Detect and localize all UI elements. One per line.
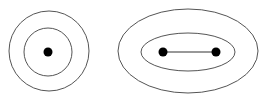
diagram-canvas bbox=[0, 0, 267, 100]
segment-endpoint-left bbox=[159, 48, 168, 57]
left-figure bbox=[9, 11, 89, 91]
center-point bbox=[44, 48, 53, 57]
right-figure bbox=[118, 9, 258, 93]
outer-ellipse bbox=[118, 9, 258, 93]
segment-endpoint-right bbox=[212, 48, 221, 57]
